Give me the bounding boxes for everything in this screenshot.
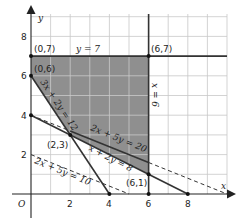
x-axis-arrow-icon <box>227 190 236 199</box>
tick-y-4: 4 <box>21 111 27 121</box>
point-6-0 <box>147 192 151 196</box>
label-point-6-1: (6,1) <box>126 178 147 188</box>
point-0-7 <box>29 54 33 58</box>
tick-y-8: 8 <box>21 32 27 42</box>
tick-y-2: 2 <box>21 150 27 160</box>
origin-label: O <box>18 199 26 209</box>
point-6-1 <box>147 172 151 176</box>
x-axis-label: x <box>221 181 226 191</box>
point-0-4 <box>29 113 33 117</box>
label-point-2-3: (2,3) <box>47 140 68 150</box>
tick-x-6: 6 <box>146 199 152 209</box>
y-axis-arrow-icon <box>27 5 36 14</box>
label-x-6: x = 6 <box>150 83 160 107</box>
label-point-0-7: (0,7) <box>34 44 55 54</box>
point-4-0 <box>107 192 111 196</box>
label-2x-5y-10: 2x + 5y = 10 <box>32 155 92 187</box>
label-point-0-6: (0,6) <box>34 64 55 74</box>
tick-x-2: 2 <box>67 199 73 209</box>
label-y-7: y = 7 <box>75 44 100 54</box>
point-8-0 <box>186 192 190 196</box>
point-0-6 <box>29 74 33 78</box>
point-2-3 <box>68 133 72 137</box>
tick-y-6: 6 <box>21 71 27 81</box>
y-axis-label: y <box>37 13 44 23</box>
point-6-7 <box>147 54 151 58</box>
linear-programming-graph: y x O 2 4 6 8 2 4 6 8 (0,7) (6,7) (0,6) … <box>0 0 239 222</box>
tick-x-4: 4 <box>106 199 112 209</box>
tick-x-8: 8 <box>185 199 191 209</box>
label-point-6-7: (6,7) <box>151 44 172 54</box>
